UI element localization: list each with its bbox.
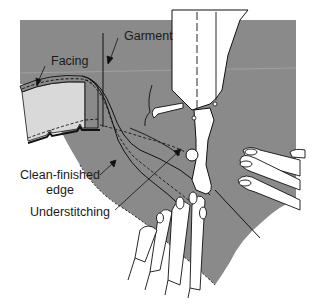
facing-label: Facing: [51, 54, 89, 69]
sewing-diagram: Garment Facing Clean-finished edge Under…: [0, 0, 315, 304]
understitching-label: Understitching: [30, 205, 110, 220]
clean-finished-edge-label: Clean-finished edge: [15, 168, 105, 198]
clean-finished-edge-line2: edge: [15, 183, 105, 198]
illustration: [0, 0, 315, 304]
garment-label: Garment: [124, 29, 173, 44]
clean-finished-edge-line1: Clean-finished: [15, 168, 105, 183]
